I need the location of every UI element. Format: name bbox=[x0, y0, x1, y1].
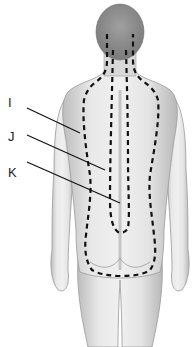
label-J: J bbox=[8, 130, 15, 143]
label-I: I bbox=[8, 96, 12, 109]
anatomy-back-diagram bbox=[0, 0, 194, 347]
body-silhouette bbox=[51, 4, 189, 347]
label-K: K bbox=[8, 166, 17, 179]
head bbox=[96, 4, 144, 60]
